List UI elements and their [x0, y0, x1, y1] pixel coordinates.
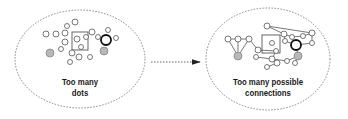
dot-open	[301, 34, 306, 39]
dot-open	[43, 31, 49, 37]
dot-open	[65, 24, 70, 29]
dot-open	[106, 28, 111, 33]
dot-open	[84, 35, 89, 40]
dot-open	[235, 36, 241, 42]
dot-open	[285, 59, 290, 64]
dot-open	[62, 39, 68, 45]
dot-open	[88, 55, 93, 60]
dot-filled	[100, 47, 108, 55]
left-label-line1: Too many	[47, 76, 113, 87]
dot-open	[309, 30, 315, 36]
dot-filled	[46, 49, 54, 57]
dot-open	[59, 47, 64, 52]
dot-open	[274, 49, 279, 54]
left-panel-label: Too many dots	[47, 76, 113, 98]
dot-bold	[101, 35, 111, 45]
dot-open	[68, 60, 73, 65]
right-panel-label: Too many possible connections	[227, 76, 309, 98]
diagram-canvas	[0, 0, 348, 119]
right-label-line1: Too many possible	[227, 76, 309, 87]
dot-open	[265, 65, 270, 70]
dot-filled	[294, 52, 302, 60]
dot-open	[274, 60, 280, 66]
dot-open	[281, 31, 287, 37]
dot-open	[264, 23, 270, 29]
dot-open	[76, 54, 82, 60]
dot-open	[269, 56, 275, 62]
dot-open	[114, 36, 119, 41]
dot-open	[53, 31, 59, 37]
dot-open	[69, 50, 75, 56]
dot-bold	[291, 40, 301, 50]
right-label-line2: connections	[227, 87, 309, 98]
dot-open	[62, 30, 68, 36]
dot-open	[270, 41, 275, 46]
dot-open	[290, 35, 295, 40]
dot-open	[96, 35, 101, 40]
dot-open	[74, 36, 80, 42]
dot-open	[72, 19, 78, 25]
dot-filled	[234, 52, 242, 60]
dot-open	[89, 29, 95, 35]
dot-open	[255, 47, 261, 53]
dot-open	[283, 39, 288, 44]
dot-open	[293, 61, 298, 66]
left-label-line2: dots	[47, 87, 113, 98]
dot-open	[254, 55, 259, 60]
dot-open	[79, 45, 84, 50]
dot-open	[225, 36, 231, 42]
dot-open	[246, 36, 252, 42]
dot-open	[310, 41, 315, 46]
